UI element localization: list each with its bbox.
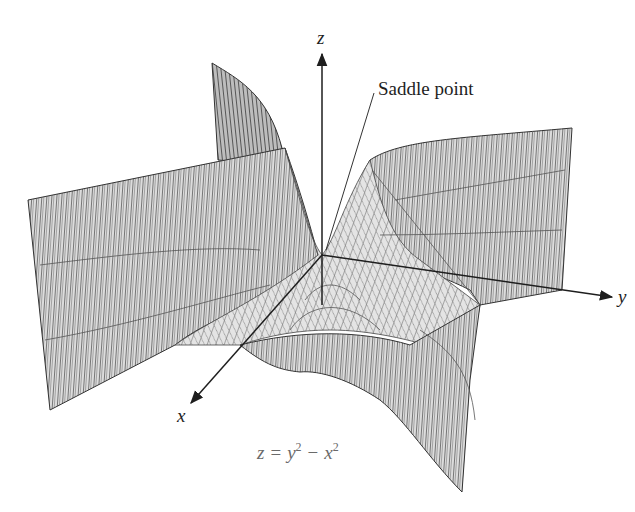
saddle-surface-figure bbox=[0, 0, 635, 512]
equation-equals: = bbox=[270, 442, 281, 463]
x-axis-label: x bbox=[177, 406, 185, 425]
equation-term1-exponent: 2 bbox=[296, 440, 302, 454]
z-axis-label: z bbox=[317, 28, 324, 47]
surface-back-left-fin bbox=[212, 63, 285, 165]
saddle-point-annotation: Saddle point bbox=[378, 78, 474, 100]
equation-minus: − bbox=[308, 442, 319, 463]
surface-left-wing bbox=[28, 148, 318, 410]
equation-term1-base: y bbox=[287, 442, 295, 463]
equation-label: z=y2−x2 bbox=[257, 440, 339, 464]
y-axis-label: y bbox=[618, 287, 626, 306]
equation-lhs: z bbox=[257, 442, 264, 463]
equation-term2-base: x bbox=[324, 442, 332, 463]
equation-term2-exponent: 2 bbox=[333, 440, 339, 454]
